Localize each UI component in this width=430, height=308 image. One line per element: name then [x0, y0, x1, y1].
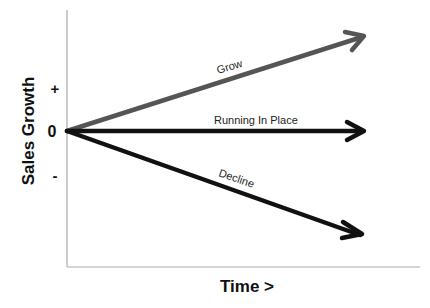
decline-arrow	[67, 131, 362, 238]
y-tick-plus: +	[51, 80, 60, 97]
y-tick-zero: 0	[48, 123, 57, 140]
y-tick-minus: -	[53, 167, 58, 184]
y-axis-title: Sales Growth	[19, 77, 38, 186]
x-axis-title: Time >	[220, 277, 274, 296]
running-in-place-label: Running In Place	[214, 114, 298, 126]
growth-diagram: Grow Running In Place Decline + 0 - Sale…	[0, 0, 430, 308]
grow-label: Grow	[215, 57, 244, 76]
